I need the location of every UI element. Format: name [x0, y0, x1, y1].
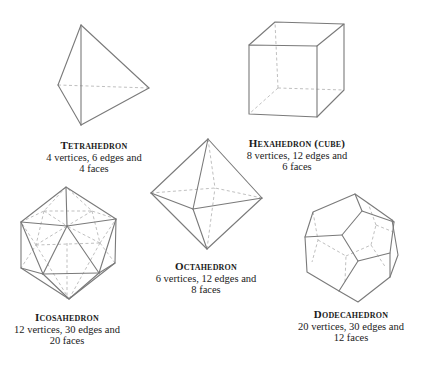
tetrahedron-drawing [58, 25, 149, 125]
solid-name: Icosahedron [14, 312, 120, 323]
solid-description-line1: 20 vertices, 30 edges and [298, 321, 404, 332]
octahedron-label: Octahedron 6 vertices, 12 edges and 8 fa… [156, 261, 257, 295]
solid-name: Dodecahedron [298, 309, 404, 320]
hexahedron-label: Hexahedron (cube) 8 vertices, 12 edges a… [247, 138, 348, 172]
platonic-solids-diagram: Tetrahedron 4 vertices, 6 edges and 4 fa… [0, 0, 424, 367]
solid-description-line2: 8 faces [156, 284, 257, 295]
icosahedron-drawing [21, 187, 116, 299]
solid-description-line2: 12 faces [298, 332, 404, 343]
solid-name: Octahedron [156, 261, 257, 272]
tetrahedron-label: Tetrahedron 4 vertices, 6 edges and 4 fa… [46, 140, 141, 174]
solid-description-line1: 6 vertices, 12 edges and [156, 273, 257, 284]
solid-description-line1: 4 vertices, 6 edges and [46, 152, 141, 163]
solid-name: Hexahedron (cube) [247, 138, 348, 149]
solid-description-line2: 6 faces [247, 161, 348, 172]
solid-description-line2: 4 faces [46, 163, 141, 174]
octahedron-drawing [151, 139, 262, 249]
hexahedron-drawing [249, 22, 344, 117]
solid-name: Tetrahedron [46, 140, 141, 151]
solid-description-line1: 12 vertices, 30 edges and [14, 324, 120, 335]
solid-description-line1: 8 vertices, 12 edges and [247, 150, 348, 161]
solid-description-line2: 20 faces [14, 335, 120, 346]
dodecahedron-drawing [305, 194, 398, 302]
icosahedron-label: Icosahedron 12 vertices, 30 edges and 20… [14, 312, 120, 346]
dodecahedron-label: Dodecahedron 20 vertices, 30 edges and 1… [298, 309, 404, 343]
